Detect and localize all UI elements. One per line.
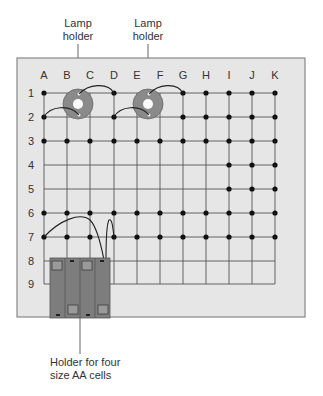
spring-icon [82, 261, 92, 270]
col-label-c: C [86, 69, 94, 81]
row-label-8: 8 [28, 255, 34, 267]
col-label-a: A [40, 69, 48, 81]
row-label-3: 3 [28, 135, 34, 147]
row-label-2: 2 [28, 111, 34, 123]
col-label-i: I [227, 69, 230, 81]
row-labels: 1 2 3 4 5 6 7 8 9 [28, 87, 34, 290]
col-label-f: F [157, 69, 164, 81]
row-label-4: 4 [28, 159, 34, 171]
circuit-board-diagram: A B C D E F G H I J K 1 2 3 4 5 6 7 8 9 [0, 0, 323, 396]
row-label-7: 7 [28, 231, 34, 243]
spring-icon [98, 305, 108, 314]
spring-icon [68, 305, 78, 314]
col-label-k: K [271, 69, 279, 81]
battery-holder [50, 258, 110, 318]
row-label-1: 1 [28, 87, 34, 99]
col-label-d: D [110, 69, 118, 81]
col-label-g: G [179, 69, 188, 81]
row-label-6: 6 [28, 207, 34, 219]
row-label-5: 5 [28, 183, 34, 195]
col-label-b: B [63, 69, 70, 81]
row-label-9: 9 [28, 278, 34, 290]
spring-icon [52, 261, 62, 270]
col-label-e: E [133, 69, 140, 81]
col-label-h: H [202, 69, 210, 81]
col-label-j: J [249, 69, 255, 81]
